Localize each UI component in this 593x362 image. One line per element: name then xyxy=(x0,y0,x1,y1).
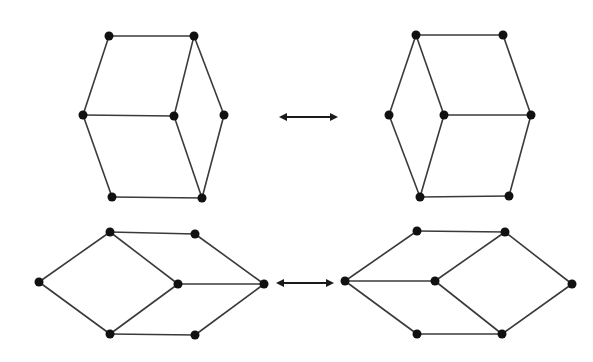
graph-edge xyxy=(83,115,174,116)
graph-node xyxy=(79,111,88,120)
graph-node xyxy=(191,230,200,239)
graph-node xyxy=(341,277,350,286)
graph-edge xyxy=(417,231,505,232)
graph-node xyxy=(501,228,510,237)
graph-edge xyxy=(110,232,178,284)
graph-edge xyxy=(502,284,572,334)
arrows-layer xyxy=(276,113,338,287)
graph-node xyxy=(198,194,207,203)
graph-edge xyxy=(195,234,264,284)
graph-node xyxy=(568,280,577,289)
top-arrow-double-arrow-icon xyxy=(279,113,338,121)
graph-node xyxy=(412,31,421,40)
graph-node xyxy=(106,228,115,237)
graphs-layer xyxy=(35,31,577,340)
graph-node xyxy=(170,112,179,121)
graph-top-left xyxy=(79,32,229,203)
graph-bottom-right xyxy=(341,227,577,339)
graph-edge xyxy=(110,334,195,335)
graph-edge xyxy=(202,115,224,198)
graph-node xyxy=(440,111,449,120)
graph-edge xyxy=(509,115,531,196)
graph-edge xyxy=(505,232,572,284)
graph-edge xyxy=(195,284,264,335)
graph-node xyxy=(431,277,440,286)
graph-edge xyxy=(174,36,194,116)
graph-node xyxy=(260,280,269,289)
graph-node xyxy=(35,278,44,287)
graph-node xyxy=(106,330,115,339)
graph-node xyxy=(191,331,200,340)
graph-edge xyxy=(435,281,502,334)
graph-node xyxy=(499,31,508,40)
graph-node xyxy=(220,111,229,120)
graph-top-right xyxy=(385,31,536,202)
graph-edge xyxy=(174,116,202,198)
graph-edge xyxy=(345,231,417,281)
graph-node xyxy=(527,111,536,120)
graph-edge xyxy=(503,35,531,115)
graph-node xyxy=(105,32,114,41)
graph-node xyxy=(498,330,507,339)
graph-edge xyxy=(110,232,195,234)
graph-edge xyxy=(416,35,444,115)
graph-edge xyxy=(39,282,110,334)
graph-node xyxy=(505,192,514,201)
graph-edge xyxy=(39,232,110,282)
graph-edge xyxy=(112,197,202,198)
bottom-arrow-double-arrow-icon xyxy=(276,279,334,287)
graph-edge xyxy=(435,232,505,281)
graph-node xyxy=(174,280,183,289)
graph-node xyxy=(416,193,425,202)
graph-edge xyxy=(420,115,444,197)
graph-equivalence-diagram xyxy=(0,0,593,362)
graph-edge xyxy=(389,35,416,115)
graph-edge xyxy=(389,115,420,197)
graph-edge xyxy=(345,281,417,334)
graph-edge xyxy=(110,284,178,334)
graph-node xyxy=(413,227,422,236)
graph-bottom-left xyxy=(35,228,269,340)
graph-node xyxy=(190,32,199,41)
graph-edge xyxy=(83,36,109,115)
graph-edge xyxy=(420,196,509,197)
graph-node xyxy=(385,111,394,120)
graph-edge xyxy=(194,36,224,115)
graph-edge xyxy=(83,115,112,197)
graph-node xyxy=(108,193,117,202)
graph-node xyxy=(413,330,422,339)
